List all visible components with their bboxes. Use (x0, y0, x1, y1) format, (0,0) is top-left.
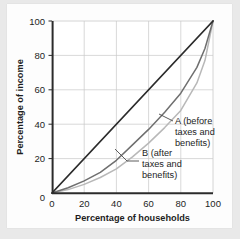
y-axis-title: Percentage of income (15, 59, 25, 154)
xtick-label-100: 100 (205, 198, 221, 209)
annotation-b-line-1: B (after (142, 148, 172, 158)
x-axis-title: Percentage of households (75, 213, 190, 223)
ytick-label-60: 60 (34, 84, 45, 95)
ytick-label-100: 100 (29, 16, 45, 27)
chart-svg: 100 80 60 40 20 0 0 20 40 60 80 100 Perc… (7, 4, 232, 228)
annotation-a-line-2: taxes and (175, 127, 215, 137)
figure-card: 100 80 60 40 20 0 0 20 40 60 80 100 Perc… (7, 4, 232, 228)
y-tick-marks (49, 21, 53, 159)
xtick-label-0: 0 (49, 198, 54, 209)
ytick-label-20: 20 (34, 153, 45, 164)
ytick-label-0: 0 (40, 192, 45, 203)
xtick-label-40: 40 (111, 198, 122, 209)
ytick-label-40: 40 (34, 119, 45, 130)
annotation-a-line-3: benefits) (175, 138, 210, 148)
xtick-label-20: 20 (79, 198, 90, 209)
y-tick-labels: 100 80 60 40 20 0 (29, 16, 45, 203)
annotation-b-line-2: taxes and (142, 159, 182, 169)
xtick-label-80: 80 (176, 198, 187, 209)
x-tick-labels: 0 20 40 60 80 100 (49, 198, 221, 209)
ytick-label-80: 80 (34, 50, 45, 61)
annotation-b-line-3: benefits) (142, 170, 177, 180)
annotation-a-line-1: A (before (175, 116, 212, 126)
lorenz-chart: 100 80 60 40 20 0 0 20 40 60 80 100 Perc… (7, 4, 232, 228)
xtick-label-60: 60 (143, 198, 154, 209)
annotation-a: A (before taxes and benefits) (175, 116, 215, 148)
